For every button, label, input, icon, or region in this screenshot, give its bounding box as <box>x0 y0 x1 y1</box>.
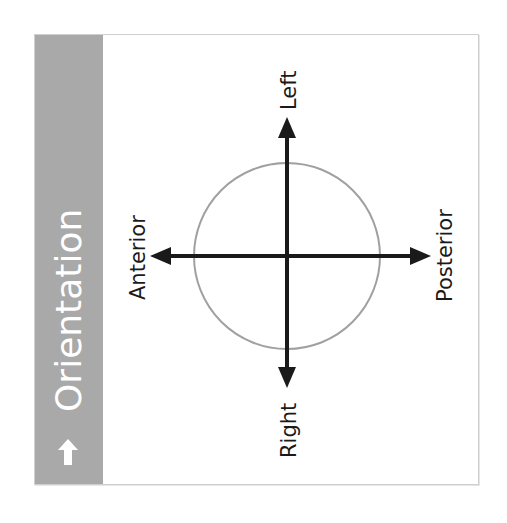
arrow-bottom <box>278 367 296 388</box>
label-left: Left <box>277 70 301 110</box>
arrow-right <box>410 247 431 265</box>
label-right: Right <box>277 403 301 458</box>
orientation-diagram: Left Right Anterior Posterior <box>0 0 507 523</box>
label-anterior: Anterior <box>126 215 150 300</box>
arrow-top <box>278 117 296 138</box>
label-posterior: Posterior <box>433 209 457 302</box>
arrow-left <box>150 247 171 265</box>
